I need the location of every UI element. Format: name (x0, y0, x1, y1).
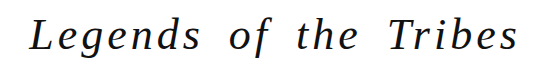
page-title: Legends of the Tribes (29, 13, 521, 57)
title-banner: Legends of the Tribes (0, 0, 550, 69)
